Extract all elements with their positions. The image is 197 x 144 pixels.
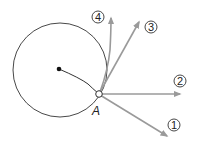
svg-text:4: 4: [95, 11, 101, 23]
svg-text:3: 3: [148, 21, 154, 33]
label-2: 2: [174, 75, 186, 87]
center-dot: [57, 67, 62, 72]
arrow-1: [100, 95, 167, 136]
arrow-3: [100, 22, 139, 92]
label-4: 4: [92, 11, 104, 23]
label-3: 3: [145, 21, 157, 33]
label-1: 1: [168, 119, 180, 131]
svg-text:1: 1: [171, 119, 177, 131]
radius-string: [57, 67, 99, 94]
circular-motion-diagram: A 4 3 2 1: [0, 0, 197, 144]
point-a-label: A: [91, 104, 100, 118]
point-a: A: [91, 91, 102, 118]
svg-text:2: 2: [177, 75, 183, 87]
